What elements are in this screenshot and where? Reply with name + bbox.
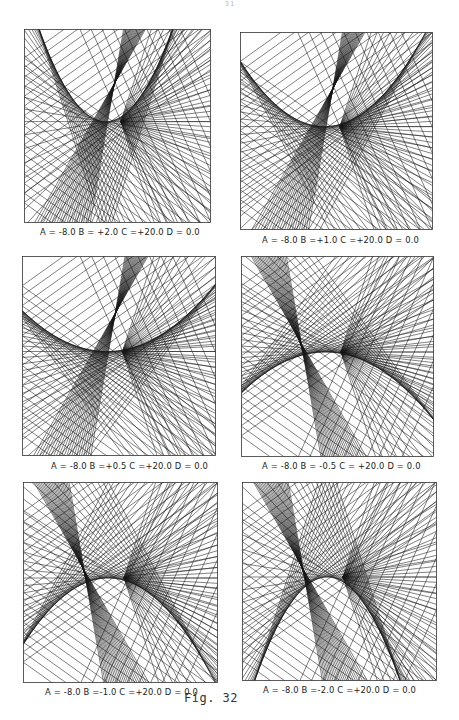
line-envelope-plot xyxy=(241,256,434,457)
line-envelope-plot xyxy=(24,29,211,223)
plot-panel-bottom-right: A = -8.0 B =-2.0 C =+20.0 D = 0.0 xyxy=(242,482,436,700)
line-envelope-plot xyxy=(22,256,216,456)
figure-caption: Fig. 32 xyxy=(184,691,238,705)
line-envelope-plot xyxy=(242,482,437,681)
plot-panel-top-right: A = -8.0 B =+1.0 C =+20.0 D = 0.0 xyxy=(240,32,432,249)
parameter-label: A = -8.0 B =+0.5 C =+20.0 D = 0.0 xyxy=(51,460,208,471)
line-envelope-plot xyxy=(23,482,218,683)
plot-panel-top-left: A = -8.0 B = +2.0 C =+20.0 D = 0.0 xyxy=(24,29,210,242)
plot-panel-middle-right: A = -8.0 B = -0.5 C = +20.0 D = 0.0 xyxy=(241,256,433,476)
plot-panel-middle-left: A = -8.0 B =+0.5 C =+20.0 D = 0.0 xyxy=(22,256,215,475)
parameter-label: A = -8.0 B = +2.0 C =+20.0 D = 0.0 xyxy=(40,226,200,237)
parameter-label: A = -8.0 B =-1.0 C =+20.0 D = 0.0 xyxy=(45,686,198,697)
parameter-label: A = -8.0 B = -0.5 C = +20.0 D = 0.0 xyxy=(262,460,421,471)
plot-panel-bottom-left: A = -8.0 B =-1.0 C =+20.0 D = 0.0 xyxy=(23,482,217,702)
line-envelope-plot xyxy=(240,32,433,230)
page-number: 31 xyxy=(218,0,242,8)
parameter-label: A = -8.0 B =-2.0 C =+20.0 D = 0.0 xyxy=(263,684,416,695)
parameter-label: A = -8.0 B =+1.0 C =+20.0 D = 0.0 xyxy=(262,234,419,245)
